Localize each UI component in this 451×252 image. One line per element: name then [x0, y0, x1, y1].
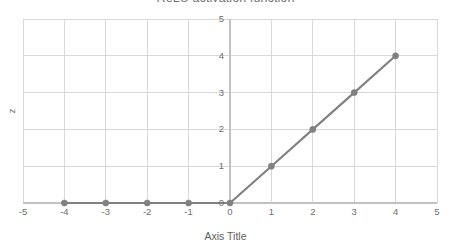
x-tick-label: -5 — [8, 206, 38, 217]
chart-container: ReLU activation function z -5-4-3-2-1012… — [0, 0, 451, 252]
data-point-marker — [351, 90, 357, 96]
x-tick-label: -2 — [132, 206, 162, 217]
x-tick-label: -4 — [49, 206, 79, 217]
y-tick-label: 0 — [202, 197, 224, 208]
x-tick-label: -1 — [174, 206, 204, 217]
y-tick-label: 4 — [202, 50, 224, 61]
y-tick-label: 2 — [202, 123, 224, 134]
x-tick-label: 5 — [422, 206, 451, 217]
x-tick-label: 1 — [256, 206, 286, 217]
data-point-marker — [393, 53, 399, 59]
x-tick-label: -3 — [91, 206, 121, 217]
x-tick-label: 2 — [298, 206, 328, 217]
y-tick-label: 3 — [202, 87, 224, 98]
y-tick-label: 1 — [202, 160, 224, 171]
x-tick-label: 3 — [339, 206, 369, 217]
x-tick-label: 4 — [381, 206, 411, 217]
x-axis-title: Axis Title — [0, 230, 451, 242]
axis-lines — [23, 19, 437, 203]
data-point-marker — [268, 163, 274, 169]
data-point-marker — [310, 126, 316, 132]
y-tick-label: 5 — [202, 13, 224, 24]
